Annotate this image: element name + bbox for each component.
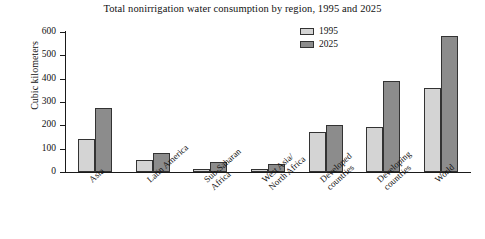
chart-title: Total nonirrigation water consumption by… bbox=[0, 3, 485, 14]
legend-swatch-1995 bbox=[300, 28, 314, 35]
legend-label-2025: 2025 bbox=[319, 40, 338, 50]
bar-2025-0 bbox=[95, 108, 112, 172]
legend-item-2025: 2025 bbox=[300, 39, 390, 50]
y-tick-0 bbox=[60, 172, 66, 173]
y-tick-label-600: 600 bbox=[26, 27, 56, 37]
bar-1995-1 bbox=[136, 160, 153, 172]
y-tick-label-100: 100 bbox=[26, 144, 56, 154]
bar-1995-0 bbox=[78, 139, 95, 172]
y-tick-label-200: 200 bbox=[26, 120, 56, 130]
legend-item-1995: 1995 bbox=[300, 26, 390, 37]
y-tick-label-400: 400 bbox=[26, 74, 56, 84]
plot-area bbox=[66, 32, 470, 172]
y-tick-label-300: 300 bbox=[26, 97, 56, 107]
y-tick-label-500: 500 bbox=[26, 50, 56, 60]
bar-2025-6 bbox=[441, 36, 458, 173]
bar-1995-5 bbox=[366, 127, 383, 173]
legend-label-1995: 1995 bbox=[319, 27, 338, 37]
chart-legend: 1995 2025 bbox=[300, 26, 390, 52]
bar-1995-4 bbox=[309, 132, 326, 172]
bar-1995-6 bbox=[424, 88, 441, 172]
y-tick-label-0: 0 bbox=[26, 167, 56, 177]
chart-figure: Total nonirrigation water consumption by… bbox=[0, 0, 485, 239]
legend-swatch-2025 bbox=[300, 41, 314, 48]
